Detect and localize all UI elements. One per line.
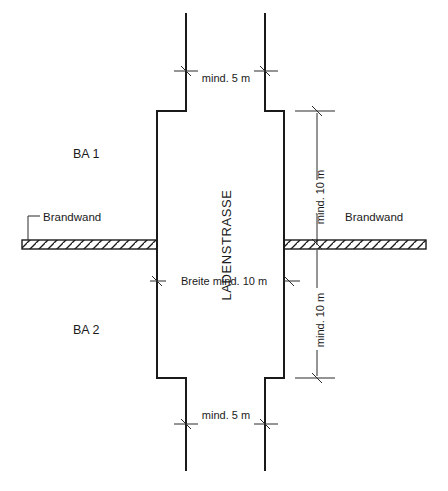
diagram-canvas: LADENSTRASSE BA 1 BA 2 Brandwand Brandwa… [0,0,448,491]
brandwand-left-hatch [22,240,157,249]
ladenstrasse-plan-svg: LADENSTRASSE BA 1 BA 2 Brandwand Brandwa… [0,0,448,491]
dim-bottom-width-label: mind. 5 m [202,409,250,421]
brandwand-left-label: Brandwand [43,211,101,223]
dim-top-width-label: mind. 5 m [202,72,250,84]
dim-breite-label: Breite mind. 10 m [181,275,267,287]
brandwand-right-hatch [284,240,426,249]
dim-upper-depth-label: mind. 10 m [314,170,326,224]
zone-label-ba2: BA 2 [73,323,99,337]
brandwand-left-wall [22,240,157,249]
dim-lower-depth-label: mind. 10 m [314,293,326,347]
zone-label-ba1: BA 1 [73,147,99,161]
brandwand-right-label: Brandwand [345,211,403,223]
brandwand-right-wall [284,240,426,249]
